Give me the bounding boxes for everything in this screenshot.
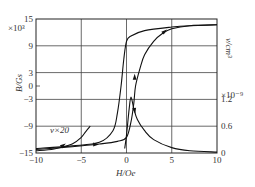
y2-axis-multiplier: ×10⁻⁹	[221, 90, 243, 100]
y2-tick-label: 0.6	[221, 121, 233, 131]
x-axis-label: H/Oe	[115, 168, 136, 178]
y-tick-label: 3	[29, 68, 34, 78]
arrow-head-icon	[133, 74, 137, 80]
y-axis-label: B/Gs	[14, 74, 24, 92]
series-curve-3	[125, 97, 217, 152]
curve-annotation: v×20	[50, 125, 70, 135]
y-tick-label: −15	[19, 148, 34, 158]
y2-axis-label: v/cm³	[224, 38, 234, 58]
y-tick-label: 0	[29, 81, 34, 91]
x-tick-label: 0	[124, 155, 129, 165]
y2-tick-label: 0	[221, 148, 226, 158]
hysteresis-chart: −10−5051015930−3−9−151.20.60 ×10³ B/Gs v…	[0, 0, 255, 187]
y-tick-label: 15	[24, 14, 34, 24]
x-tick-label: 5	[170, 155, 175, 165]
y-tick-label: −3	[23, 94, 33, 104]
y-tick-label: 9	[29, 41, 34, 51]
y-axis-multiplier: ×10³	[8, 23, 25, 33]
y-tick-label: −9	[23, 121, 33, 131]
x-tick-label: −5	[76, 155, 86, 165]
